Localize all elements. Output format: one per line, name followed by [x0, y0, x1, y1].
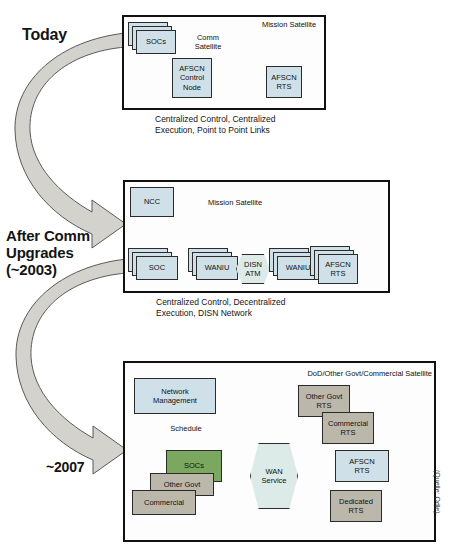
era-label-future: ~2007 — [46, 460, 84, 476]
source-note: (Quelle: Odle) — [434, 470, 441, 514]
era-label-after-comm: After Comm Upgrades (~2003) — [6, 228, 90, 278]
today-node-afscn-control-node[interactable]: AFSCN Control Node — [172, 58, 212, 98]
after-comm-node-ncc[interactable]: NCC — [130, 187, 174, 217]
flow-ribbon-2003-to-2007 — [16, 259, 127, 474]
future-node-commercial[interactable]: Commercial — [132, 490, 196, 515]
panel-caption-after-comm: Centralized Control, Decentralized Execu… — [156, 297, 285, 320]
future-node-commercial-rts[interactable]: Commercial RTS — [322, 412, 374, 444]
today-label-comm-satellite: Comm Satellite — [186, 33, 230, 51]
era-label-today: Today — [22, 26, 67, 44]
future-label-schedule: Schedule — [160, 424, 212, 433]
today-node-socs[interactable]: SOCs — [136, 30, 176, 54]
after-comm-label-mission-satellite: Mission Satellite — [199, 198, 271, 207]
future-node-afscn-rts[interactable]: AFSCN RTS — [335, 450, 389, 482]
future-node-wan-service[interactable]: WAN Service — [250, 443, 298, 509]
future-node-network-management[interactable]: Network Management — [134, 378, 216, 414]
after-comm-node-soc[interactable]: SOC — [136, 256, 178, 280]
today-label-mission-satellite: Mission Satellite — [254, 20, 324, 29]
future-label-satellite: DoD/Other Govt/Commercial Satellite — [272, 369, 432, 378]
today-node-afscn-rts[interactable]: AFSCN RTS — [266, 66, 302, 98]
after-comm-node-afscn-rts[interactable]: AFSCN RTS — [318, 254, 358, 284]
after-comm-node-disn-atm[interactable]: DISN ATM — [236, 254, 270, 284]
flow-ribbon-today-to-2003 — [15, 33, 126, 248]
after-comm-node-waniu-left[interactable]: WANIU — [196, 256, 238, 280]
diagram-canvas: Today After Comm Upgrades (~2003) ~2007 … — [0, 0, 468, 556]
panel-caption-today: Centralized Control, Centralized Executi… — [155, 114, 275, 137]
future-node-dedicated-rts[interactable]: Dedicated RTS — [330, 490, 382, 522]
